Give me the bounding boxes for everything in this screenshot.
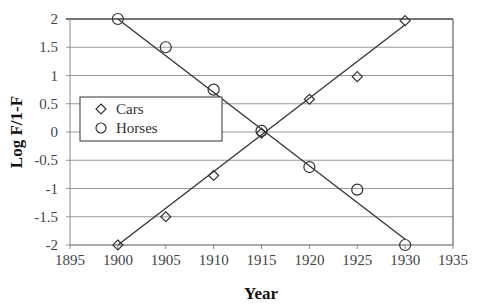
diamond-marker-icon [400,16,410,26]
x-tick-label: 1900 [103,252,133,268]
y-tick-label: 0.5 [39,96,58,112]
legend: Cars Horses [80,97,222,141]
circle-icon [96,123,106,133]
x-tick-label: 1925 [342,252,372,268]
circle-marker-icon [352,184,363,195]
y-tick-label: -1 [46,181,59,197]
y-tick-label: 2 [51,11,59,27]
diamond-marker-icon [352,72,362,82]
y-axis-ticks: 21.510.50-0.5-1-1.5-2 [34,11,58,253]
y-tick-label: -2 [46,237,59,253]
x-tick-label: 1935 [438,252,468,268]
legend-label-horses: Horses [116,120,158,136]
x-tick-label: 1930 [390,252,420,268]
x-tick-label: 1920 [294,252,324,268]
y-tick-label: 0 [51,124,59,140]
x-tick-label: 1910 [199,252,229,268]
chart-canvas: 21.510.50-0.5-1-1.5-2 189519001905191019… [0,0,478,307]
y-tick-label: -1.5 [34,209,58,225]
x-tick-label: 1915 [247,252,277,268]
x-tick-label: 1905 [151,252,181,268]
x-tick-label: 1895 [55,252,85,268]
legend-label-cars: Cars [116,101,144,117]
y-tick-label: 1 [51,68,59,84]
x-axis-title: Year [244,284,278,303]
y-axis-title: Log F/1-F [7,96,26,168]
y-tick-label: -0.5 [34,152,58,168]
y-tick-label: 1.5 [39,39,58,55]
circle-marker-icon [304,162,315,173]
